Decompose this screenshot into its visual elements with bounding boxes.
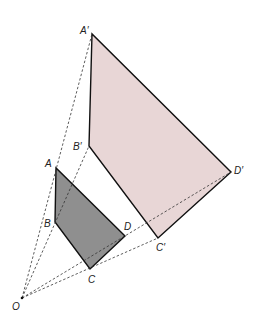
- centre-point: [21, 297, 24, 300]
- diagram-canvas: [0, 0, 264, 333]
- enlargement-diagram: A′ B′ C′ D′ A B C D O: [0, 0, 264, 333]
- label-d-prime: D′: [234, 166, 243, 176]
- label-d: D: [124, 222, 131, 232]
- object-quadrilateral: [55, 168, 125, 269]
- label-a-prime: A′: [80, 26, 89, 36]
- label-a: A: [45, 159, 52, 169]
- label-b-prime: B′: [73, 142, 82, 152]
- image-quadrilateral: [89, 34, 231, 238]
- label-o: O: [12, 302, 20, 312]
- label-c: C: [88, 275, 95, 285]
- label-b: B: [44, 219, 51, 229]
- label-c-prime: C′: [156, 243, 165, 253]
